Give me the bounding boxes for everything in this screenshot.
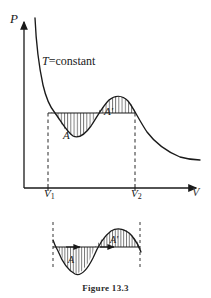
figure-caption: Figure 13.3 [0, 283, 211, 293]
v1-subscript: 1 [51, 192, 55, 201]
v2-symbol: V [131, 187, 138, 199]
v2-tick-label: V2 [131, 188, 142, 201]
v1-symbol: V [44, 187, 51, 199]
v2-subscript: 2 [138, 192, 142, 201]
figure-13-3: P V T=constant V1 V2 A A' A A' Figure 13… [0, 0, 211, 298]
temperature-symbol: T [42, 54, 49, 68]
isotherm-condition-rest: =constant [49, 54, 96, 68]
inset-area-aprime-label: A' [110, 235, 118, 245]
x-axis-label: V [192, 186, 199, 198]
inset-area-a-label: A [68, 255, 74, 265]
area-a-label: A [63, 130, 70, 141]
area-a-hatching [44, 108, 102, 146]
v1-tick-label: V1 [44, 188, 55, 201]
figure-drawing [0, 0, 211, 298]
y-axis-label: P [10, 12, 18, 25]
isotherm-condition-label: T=constant [42, 55, 95, 67]
area-aprime-label: A' [104, 106, 113, 117]
isotherm-curve [35, 18, 200, 160]
